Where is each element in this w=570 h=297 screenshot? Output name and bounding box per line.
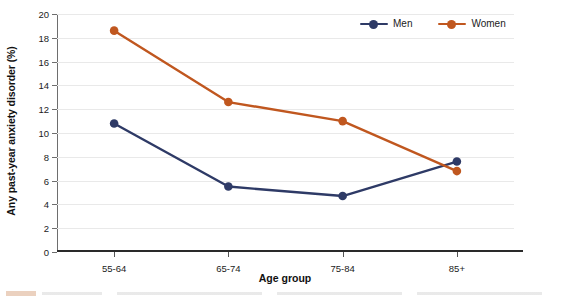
y-tick-mark <box>52 252 57 253</box>
plot-area: 02468101214161820 55-6465-7475-8485+ <box>57 14 514 252</box>
series-line-men <box>114 123 457 196</box>
y-tick-label: 10 <box>38 128 49 139</box>
data-point-women-65-74[interactable] <box>224 98 233 107</box>
data-point-women-55-64[interactable] <box>110 26 119 35</box>
x-tick-mark <box>343 252 344 257</box>
chart-figure: Any past-year anxiety disorder (%) 02468… <box>0 0 570 297</box>
y-tick-label: 2 <box>44 223 49 234</box>
cropped-caption <box>0 291 570 297</box>
legend-swatch-men-icon <box>360 19 388 29</box>
x-tick-mark <box>114 252 115 257</box>
y-tick-label: 12 <box>38 104 49 115</box>
data-point-women-75-84[interactable] <box>338 117 347 126</box>
data-point-men-65-74[interactable] <box>224 182 233 191</box>
data-point-men-55-64[interactable] <box>110 119 119 128</box>
y-tick-label: 14 <box>38 80 49 91</box>
legend-item-men[interactable]: Men <box>360 18 412 29</box>
y-tick-label: 16 <box>38 56 49 67</box>
y-axis-title: Any past-year anxiety disorder (%) <box>0 0 22 262</box>
data-point-women-85+[interactable] <box>453 167 462 176</box>
chart-legend: Men Women <box>360 18 506 29</box>
caption-chip <box>6 291 36 296</box>
series-layer <box>57 14 514 252</box>
caption-text-sliver <box>42 292 542 295</box>
legend-label-men: Men <box>393 18 412 29</box>
y-tick-label: 8 <box>44 151 49 162</box>
legend-item-women[interactable]: Women <box>438 18 505 29</box>
data-point-men-75-84[interactable] <box>338 192 347 201</box>
x-tick-mark <box>228 252 229 257</box>
y-tick-label: 20 <box>38 9 49 20</box>
legend-label-women: Women <box>471 18 505 29</box>
y-tick-label: 18 <box>38 32 49 43</box>
y-tick-label: 4 <box>44 199 49 210</box>
series-line-women <box>114 31 457 171</box>
data-point-men-85+[interactable] <box>453 157 462 166</box>
x-axis-title-text: Age group <box>259 272 312 284</box>
x-tick-mark <box>457 252 458 257</box>
y-tick-label: 0 <box>44 247 49 258</box>
y-tick-label: 6 <box>44 175 49 186</box>
y-axis-title-text: Any past-year anxiety disorder (%) <box>5 46 17 215</box>
legend-swatch-women-icon <box>438 19 466 29</box>
x-axis-title: Age group <box>0 272 570 284</box>
